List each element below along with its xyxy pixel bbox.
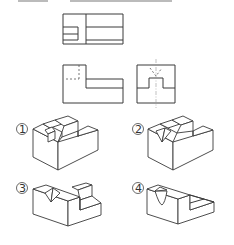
diagram-canvas: 1 2 3 — [0, 0, 234, 245]
option-4-number: 4 — [135, 182, 142, 195]
option-2[interactable]: 2 — [133, 116, 214, 170]
option-3-number: 3 — [19, 182, 26, 195]
front-view — [63, 65, 123, 103]
option-4[interactable]: 4 — [133, 182, 215, 224]
option-1-number: 1 — [19, 123, 26, 136]
option-2-number: 2 — [135, 123, 142, 136]
option-1[interactable]: 1 — [17, 116, 99, 170]
option-3[interactable]: 3 — [17, 182, 102, 226]
top-view — [63, 14, 123, 44]
side-view — [137, 59, 175, 108]
